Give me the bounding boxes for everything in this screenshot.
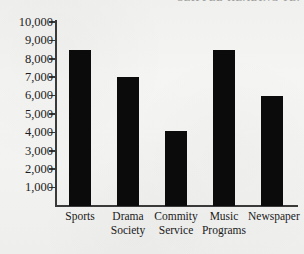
y-axis-tick-label: 5,000 [5, 108, 53, 121]
bar [213, 50, 235, 206]
x-axis-category-label: CommityService [152, 210, 200, 237]
category-label-line1: Sports [65, 210, 94, 222]
category-label-line2: Programs [200, 224, 248, 238]
bar [165, 131, 187, 206]
y-axis-tick-label: 2,000 [5, 163, 53, 176]
x-axis-category-label: Sports [56, 210, 104, 224]
x-axis-category-label: Newspaper [248, 210, 296, 224]
x-axis-category-label: MusicPrograms [200, 210, 248, 237]
bar-chart: 10,0009,0008,0007,0006,0005,0004,0003,00… [0, 0, 304, 254]
y-axis-tick-label: 3,000 [5, 145, 53, 158]
y-axis-tick-label: 9,000 [5, 34, 53, 47]
bar [117, 77, 139, 206]
y-axis-tick-label: 10,000 [5, 16, 53, 29]
category-label-line2: Service [152, 224, 200, 238]
category-label-line1: Music [210, 210, 239, 222]
category-label-line1: Commity [154, 210, 197, 222]
y-axis-tick-label: 7,000 [5, 71, 53, 84]
bar [261, 96, 283, 206]
y-axis-tick-label: 4,000 [5, 126, 53, 139]
category-label-line1: Newspaper [248, 210, 300, 222]
category-label-line2: Society [104, 224, 152, 238]
y-axis-tick-label: 8,000 [5, 53, 53, 66]
x-axis-category-label: DramaSociety [104, 210, 152, 237]
bar [69, 50, 91, 206]
category-label-line1: Drama [112, 210, 143, 222]
y-axis-tick-label: 1,000 [5, 181, 53, 194]
y-axis-tick-label: 6,000 [5, 89, 53, 102]
